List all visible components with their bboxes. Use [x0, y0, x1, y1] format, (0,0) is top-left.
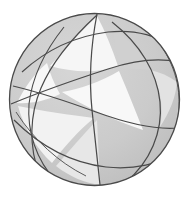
sphere-diagram: [0, 0, 189, 198]
figure-root: [0, 0, 189, 198]
